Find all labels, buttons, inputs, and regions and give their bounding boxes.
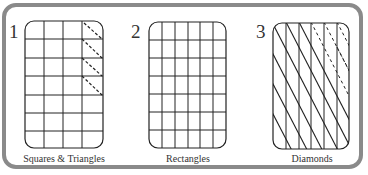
diamonds-grid-diagram — [272, 22, 352, 151]
panel-caption: Diamonds — [262, 153, 362, 164]
rectangles-grid-diagram — [148, 21, 228, 150]
panel-caption: Rectangles — [138, 153, 238, 164]
panel-caption: Squares & Triangles — [14, 153, 114, 164]
squares-triangles-grid-diagram — [24, 20, 104, 150]
panel-number: 3 — [256, 22, 266, 41]
panel-number: 2 — [131, 22, 141, 41]
panel-number: 1 — [9, 22, 19, 41]
